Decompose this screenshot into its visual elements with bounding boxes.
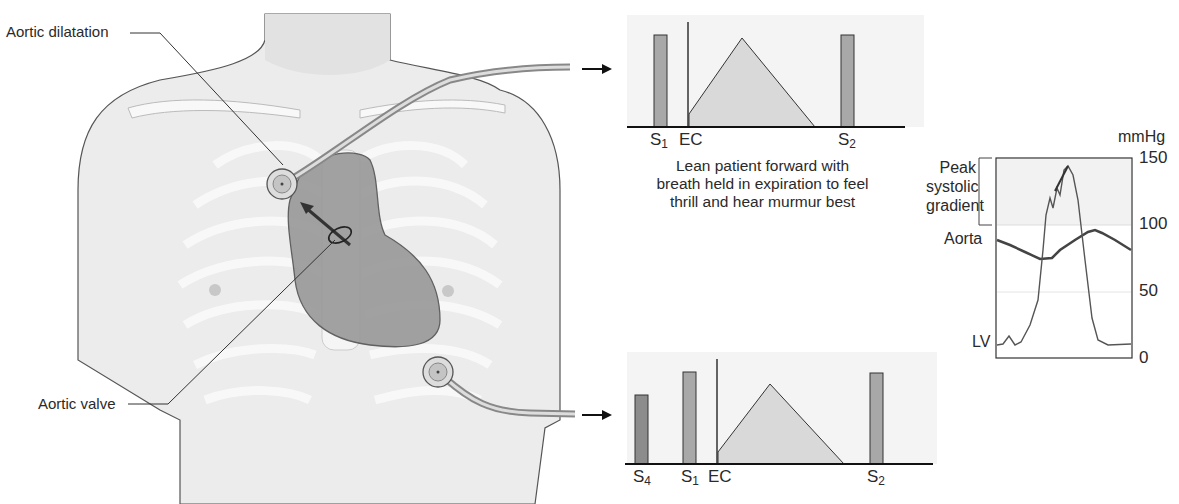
s2-bar [870, 373, 883, 464]
label-s1: S1 [650, 130, 668, 151]
label-s2: S2 [838, 130, 856, 151]
phono-caption: Lean patient forward with breath held in… [640, 157, 885, 211]
unit-label: mmHg [1118, 128, 1165, 146]
tick-0: 0 [1139, 348, 1148, 368]
tick-150: 150 [1139, 148, 1167, 168]
label-ec: EC [708, 467, 732, 487]
phonocardiogram-top [627, 15, 924, 127]
s4-bar [635, 395, 648, 464]
s1-bar [683, 372, 696, 464]
pressure-chart [979, 158, 1132, 358]
peak-gradient-bracket [979, 158, 992, 225]
s2-bar [841, 35, 854, 127]
arrow-right-icon [602, 410, 612, 420]
label-aorta: Aorta [944, 230, 982, 248]
s1-bar [654, 35, 667, 127]
label-s4: S4 [633, 467, 651, 488]
nipple-right [442, 285, 454, 297]
label-s1: S1 [681, 467, 699, 488]
anatomy-illustration [0, 0, 1179, 504]
phonocardiogram-bottom [625, 352, 937, 464]
label-aortic-dilatation: Aortic dilatation [6, 23, 109, 40]
nipple-left [209, 284, 221, 296]
tick-50: 50 [1139, 281, 1158, 301]
label-lv: LV [972, 333, 990, 351]
label-aortic-valve: Aortic valve [38, 395, 116, 412]
tick-100: 100 [1139, 214, 1167, 234]
arrow-right-icon [602, 64, 612, 74]
label-ec: EC [679, 130, 703, 150]
label-peak-systolic-gradient: Peak systolic gradient [926, 158, 976, 215]
label-s2: S2 [867, 467, 885, 488]
